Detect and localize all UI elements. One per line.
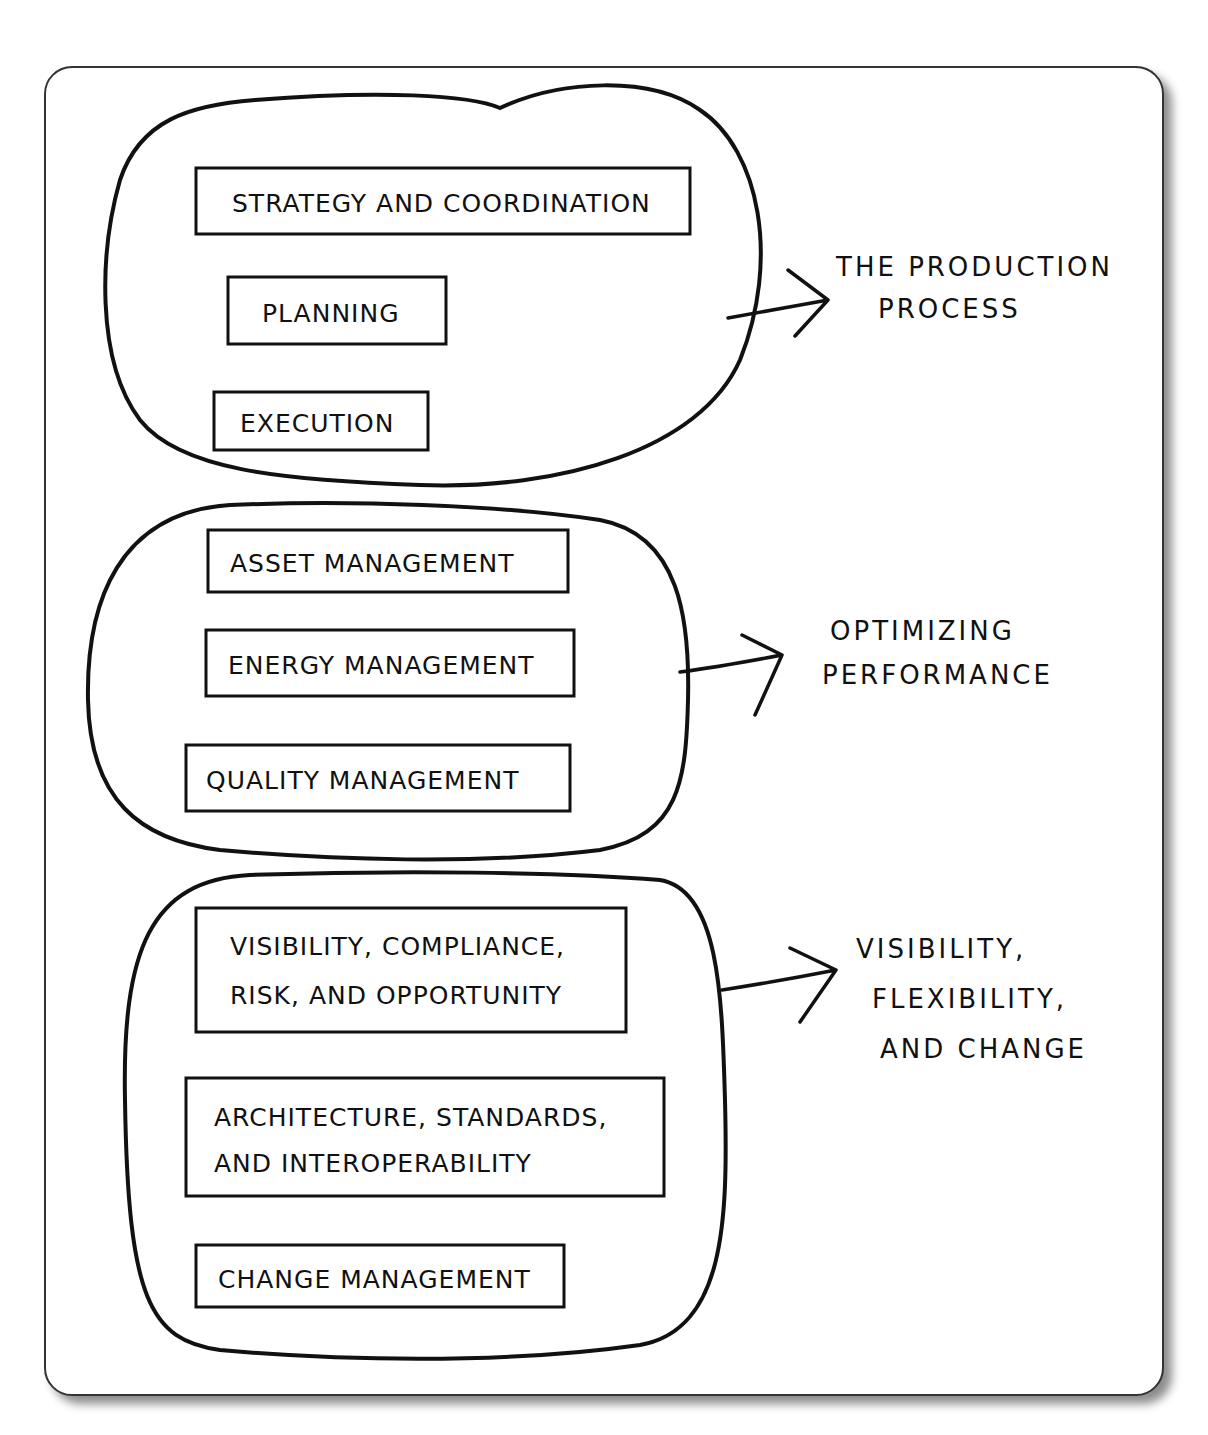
group-production-process: STRATEGY AND COORDINATION PLANNING EXECU… — [105, 85, 1113, 485]
outcome-label: FLEXIBILITY, — [872, 984, 1067, 1014]
item-label: RISK, AND OPPORTUNITY — [230, 981, 562, 1010]
item-label: PLANNING — [262, 299, 400, 328]
item-label: ASSET MANAGEMENT — [230, 549, 514, 578]
item-label: EXECUTION — [240, 409, 395, 438]
outcome-label: OPTIMIZING — [830, 616, 1015, 646]
item-label: ARCHITECTURE, STANDARDS, — [214, 1103, 607, 1132]
item-box — [196, 908, 626, 1032]
arrow-icon — [680, 635, 782, 715]
group-optimizing-performance: ASSET MANAGEMENT ENERGY MANAGEMENT QUALI… — [88, 503, 1053, 859]
outcome-label: AND CHANGE — [880, 1034, 1087, 1064]
arrow-icon — [722, 948, 836, 1022]
diagram-canvas: STRATEGY AND COORDINATION PLANNING EXECU… — [0, 0, 1208, 1435]
item-label: CHANGE MANAGEMENT — [218, 1265, 531, 1294]
item-box — [186, 1078, 664, 1196]
group-visibility-flexibility-change: VISIBILITY, COMPLIANCE, RISK, AND OPPORT… — [125, 872, 1087, 1358]
outcome-label: PERFORMANCE — [822, 660, 1053, 690]
outcome-label: THE PRODUCTION — [835, 252, 1113, 282]
item-label: STRATEGY AND COORDINATION — [232, 189, 651, 218]
item-label: AND INTEROPERABILITY — [214, 1149, 532, 1178]
outcome-label: PROCESS — [878, 294, 1021, 324]
item-label: QUALITY MANAGEMENT — [206, 766, 519, 795]
arrow-icon — [728, 270, 828, 336]
item-label: VISIBILITY, COMPLIANCE, — [230, 932, 565, 961]
outcome-label: VISIBILITY, — [856, 934, 1026, 964]
item-label: ENERGY MANAGEMENT — [228, 651, 535, 680]
